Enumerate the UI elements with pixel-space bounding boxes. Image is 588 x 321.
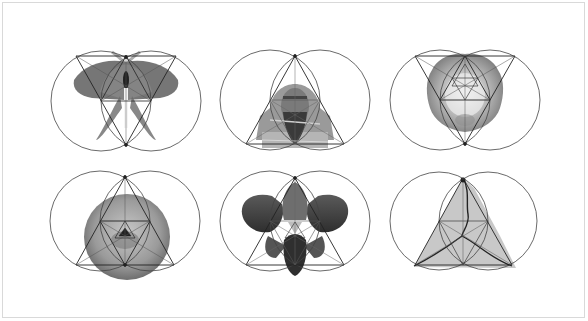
panel-sphere xyxy=(50,171,200,280)
panel-sphinx xyxy=(220,50,370,150)
geometry-diagram xyxy=(0,0,588,321)
sphere-geometry xyxy=(50,171,200,271)
panel-moth xyxy=(51,51,201,151)
orchid-geometry xyxy=(220,171,370,271)
flower-bud-geometry xyxy=(390,50,540,150)
panel-leaf xyxy=(390,172,537,270)
leaf-image xyxy=(414,178,516,269)
panel-flower-bud xyxy=(390,50,540,150)
panel-orchid xyxy=(220,171,370,276)
sphinx-geometry xyxy=(220,50,370,150)
moth-geometry xyxy=(51,51,201,151)
